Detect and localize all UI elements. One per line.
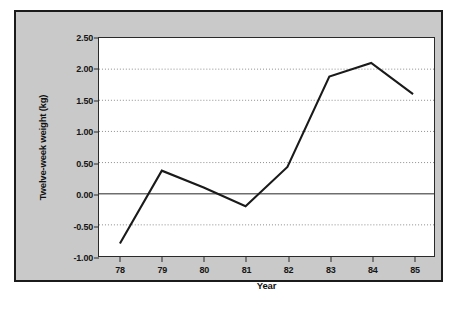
y-tick-label: -1.00 — [73, 253, 93, 263]
plot-area: 2.502.001.501.000.500.00-0.50-1.00 78798… — [98, 37, 435, 257]
chart-panel: 2.502.001.501.000.500.00-0.50-1.00 78798… — [14, 10, 443, 282]
x-tick-mark — [372, 256, 373, 262]
x-tick-mark — [162, 256, 163, 262]
x-tick-label: 83 — [326, 265, 336, 275]
chart-figure: 2.502.001.501.000.500.00-0.50-1.00 78798… — [0, 0, 459, 309]
y-tick-mark — [94, 226, 99, 227]
data-series-layer — [99, 38, 434, 256]
x-tick-mark — [414, 256, 415, 262]
x-tick-mark — [246, 256, 247, 262]
y-tick-label: 0.00 — [76, 190, 93, 200]
x-tick-label: 79 — [157, 265, 167, 275]
x-tick-mark — [204, 256, 205, 262]
y-tick-mark — [94, 38, 99, 39]
data-line — [120, 63, 413, 244]
x-tick-label: 81 — [242, 265, 252, 275]
y-tick-mark — [94, 69, 99, 70]
x-tick-mark — [288, 256, 289, 262]
y-tick-label: 2.00 — [76, 64, 93, 74]
y-tick-label: 1.00 — [76, 127, 93, 137]
x-tick-mark — [330, 256, 331, 262]
x-tick-label: 78 — [115, 265, 125, 275]
y-axis-title: Twelve-week weight (kg) — [35, 37, 51, 257]
x-tick-label: 80 — [200, 265, 210, 275]
x-axis-title: Year — [98, 280, 435, 291]
x-tick-label: 85 — [410, 265, 420, 275]
y-tick-mark — [94, 132, 99, 133]
y-tick-label: 0.50 — [76, 159, 93, 169]
x-tick-mark — [120, 256, 121, 262]
y-tick-label: -0.50 — [73, 222, 93, 232]
y-tick-label: 1.50 — [76, 96, 93, 106]
y-tick-mark — [94, 195, 99, 196]
x-tick-label: 82 — [284, 265, 294, 275]
y-tick-label: 2.50 — [76, 33, 93, 43]
y-tick-mark — [94, 258, 99, 259]
x-tick-label: 84 — [368, 265, 378, 275]
y-axis-title-text: Twelve-week weight (kg) — [38, 94, 49, 200]
y-tick-mark — [94, 100, 99, 101]
y-tick-mark — [94, 163, 99, 164]
